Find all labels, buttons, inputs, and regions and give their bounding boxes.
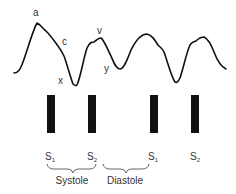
heart-sound-label: S1 (45, 151, 56, 163)
label-x: x (58, 75, 63, 86)
label-v: v (97, 25, 102, 36)
heart-sound-label: S1 (148, 151, 159, 163)
label-c: c (62, 36, 67, 47)
label-a: a (33, 7, 39, 18)
s2-bar (191, 95, 199, 133)
heart-sound-label: S2 (190, 151, 201, 163)
label-y: y (104, 63, 109, 74)
jvp-diagram: a c x v y S1 S2 S1 S2 Systole Diastole (0, 0, 236, 194)
systole-label: Systole (56, 175, 89, 186)
jvp-waveform (14, 23, 226, 86)
systole-brace (47, 164, 96, 173)
s2-bar (88, 95, 96, 133)
heart-sound-label: S2 (87, 151, 98, 163)
diastole-brace (103, 164, 149, 173)
s1-bar (150, 95, 158, 133)
diastole-label: Diastole (107, 175, 144, 186)
s1-bar (47, 95, 55, 133)
